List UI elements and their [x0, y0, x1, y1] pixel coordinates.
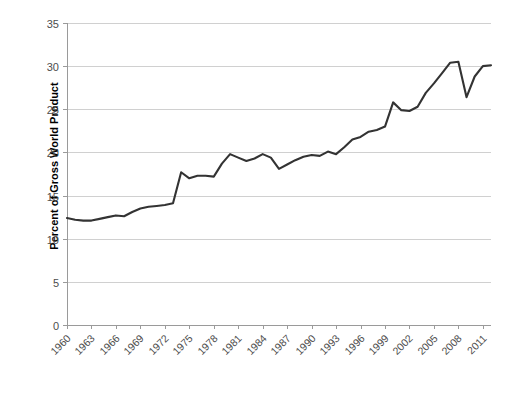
chart-container: Percent of Gross World Product 051015202…	[0, 0, 518, 394]
x-tick-label: 1996	[342, 332, 367, 357]
x-tick-label: 1975	[170, 332, 195, 357]
x-tick-label: 1990	[293, 332, 318, 357]
x-tick-label: 1981	[219, 332, 244, 357]
y-tick-label: 30	[47, 61, 59, 73]
y-tick-label: 25	[47, 104, 59, 116]
y-axis-ticks: 05101520253035	[47, 18, 67, 332]
x-tick-label: 1969	[121, 332, 146, 357]
x-tick-label: 1978	[195, 332, 220, 357]
y-tick-label: 0	[53, 320, 59, 332]
y-tick-label: 10	[47, 234, 59, 246]
x-tick-label: 1999	[366, 332, 391, 357]
x-tick-label: 2005	[415, 332, 440, 357]
x-tick-label: 1972	[146, 332, 171, 357]
x-tick-label: 1984	[244, 332, 269, 357]
x-tick-label: 1966	[97, 332, 122, 357]
line-chart-plot: 05101520253035 1960196319661969197219751…	[0, 0, 518, 394]
y-tick-label: 5	[53, 277, 59, 289]
x-tick-label: 1987	[268, 332, 293, 357]
x-tick-label: 1993	[317, 332, 342, 357]
x-tick-label: 2011	[464, 332, 489, 357]
y-tick-label: 15	[47, 191, 59, 203]
y-tick-label: 20	[47, 147, 59, 159]
gridlines-group	[67, 24, 491, 283]
x-tick-label: 1963	[72, 332, 97, 357]
x-tick-label: 2008	[439, 332, 464, 357]
y-tick-label: 35	[47, 18, 59, 30]
x-tick-label: 2002	[390, 332, 415, 357]
x-axis-ticks: 1960196319661969197219751978198119841987…	[48, 325, 489, 357]
x-tick-label: 1960	[48, 332, 73, 357]
